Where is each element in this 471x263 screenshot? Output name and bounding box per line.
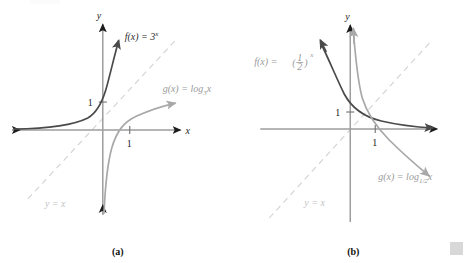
panel-a: 1 1 x y f(x) = 3x g(x) = log3x y = x (a) [0, 0, 236, 263]
panel-a-plot: 1 1 x y f(x) = 3x g(x) = log3x y = x [0, 0, 236, 263]
identity-label-b: y = x [303, 197, 325, 208]
log-curve-a [104, 103, 176, 214]
y-axis-label-b: y [344, 11, 350, 22]
figure-container: 1 1 x y f(x) = 3x g(x) = log3x y = x (a) [0, 0, 471, 263]
panel-b-plot: 1 1 y f(x) = ( 1 2 ) x g(x) = log1/2x y … [236, 0, 471, 263]
exp-label-b-prefix: f(x) = [254, 56, 277, 68]
panel-a-caption: (a) [0, 246, 236, 257]
panel-b-caption: (b) [236, 246, 471, 257]
log-function-label-a: g(x) = log3x [163, 83, 212, 96]
exponential-curve-b-arrow [320, 40, 326, 52]
x-tick-label-b: 1 [372, 137, 377, 148]
top-edge-artifact [30, 0, 60, 4]
identity-label-a: y = x [44, 198, 66, 209]
panel-b: 1 1 y f(x) = ( 1 2 ) x g(x) = log1/2x y … [236, 0, 471, 263]
exp-function-label-b: f(x) = ( 1 2 ) x [254, 51, 314, 72]
exp-label-b-paren-close: ) [303, 57, 308, 69]
x-axis-label-a: x [185, 125, 191, 136]
exp-function-label-a: f(x) = 3x [125, 30, 160, 43]
exp-label-b-exponent: x [309, 51, 314, 59]
exp-label-b-paren-open: ( [292, 57, 296, 69]
x-tick-label-a: 1 [127, 138, 132, 149]
y-tick-label-b: 1 [335, 107, 340, 118]
log-curve-b-arrow [353, 28, 354, 44]
corner-marker-square [450, 242, 463, 255]
exp-label-b-denominator: 2 [297, 61, 302, 72]
log-curve-b [353, 30, 429, 176]
identity-line-a [28, 41, 175, 199]
y-tick-label-a: 1 [88, 97, 93, 108]
y-axis-label-a: y [96, 10, 102, 21]
